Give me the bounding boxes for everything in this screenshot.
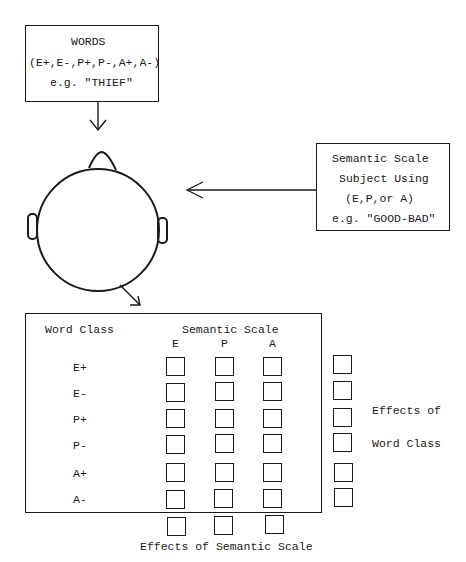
- arrow-down-right-icon: [120, 285, 140, 305]
- semantic-scale-effects-label: Effects of Semantic Scale: [140, 541, 313, 553]
- cell-e-minus-E: [166, 383, 185, 402]
- col-label-e: E: [172, 338, 179, 350]
- cell-e-plus-A: [263, 357, 282, 376]
- semantic-scale-effect-cell-E: [167, 517, 186, 536]
- cell-a-minus-P: [214, 489, 233, 508]
- cell-p-plus-P: [215, 409, 234, 428]
- semantic-scale-effect-cell-A: [265, 515, 284, 534]
- cell-p-minus-P: [215, 434, 234, 453]
- word-class-effect-cell: [333, 381, 352, 400]
- word-class-effects-label-2: Word Class: [372, 438, 441, 450]
- semantic-scale-effect-cell-P: [214, 516, 233, 535]
- cell-e-plus-E: [166, 357, 185, 376]
- row-label: E-: [73, 388, 87, 400]
- cell-p-plus-A: [263, 409, 282, 428]
- cell-e-minus-A: [263, 382, 282, 401]
- col-header: Semantic Scale: [182, 324, 279, 336]
- semantic-scale-box: Semantic Scale Subject Using (E,P,or A) …: [316, 143, 450, 231]
- word-class-effect-cell: [334, 488, 353, 507]
- row-label: E+: [73, 362, 87, 374]
- words-title: WORDS: [71, 36, 106, 48]
- row-header: Word Class: [45, 324, 114, 336]
- cell-p-minus-E: [166, 435, 185, 454]
- cell-a-minus-E: [166, 490, 185, 509]
- row-label: A+: [73, 468, 87, 480]
- word-class-effect-cell: [333, 408, 352, 427]
- words-box: WORDS (E+,E-,P+,P-,A+,A-) e.g. "THIEF": [25, 25, 159, 102]
- word-class-effect-cell: [333, 355, 352, 374]
- word-class-effects-label-1: Effects of: [372, 405, 441, 417]
- arrow-down-icon: [90, 101, 106, 130]
- words-classes: (E+,E-,P+,P-,A+,A-): [29, 57, 160, 69]
- cell-p-plus-E: [166, 409, 185, 428]
- word-class-effect-cell: [334, 463, 353, 482]
- head-top-view-icon: [28, 152, 167, 291]
- scale-title: Semantic Scale: [332, 153, 429, 165]
- cell-e-plus-P: [215, 357, 234, 376]
- word-class-effect-cell: [333, 433, 352, 452]
- scale-subject: Subject Using: [339, 173, 429, 185]
- col-label-p: P: [221, 338, 228, 350]
- scale-example: e.g. "GOOD-BAD": [332, 213, 436, 225]
- cell-e-minus-P: [215, 382, 234, 401]
- row-label: A-: [73, 494, 87, 506]
- col-label-a: A: [269, 338, 276, 350]
- cell-p-minus-A: [263, 434, 282, 453]
- scale-options: (E,P,or A): [345, 193, 414, 205]
- words-example: e.g. "THIEF": [50, 77, 133, 89]
- cell-a-plus-P: [215, 463, 234, 482]
- row-label: P-: [73, 440, 87, 452]
- cell-a-minus-A: [263, 489, 282, 508]
- arrow-left-icon: [187, 182, 316, 198]
- row-label: P+: [73, 414, 87, 426]
- cell-a-plus-A: [263, 463, 282, 482]
- cell-a-plus-E: [166, 463, 185, 482]
